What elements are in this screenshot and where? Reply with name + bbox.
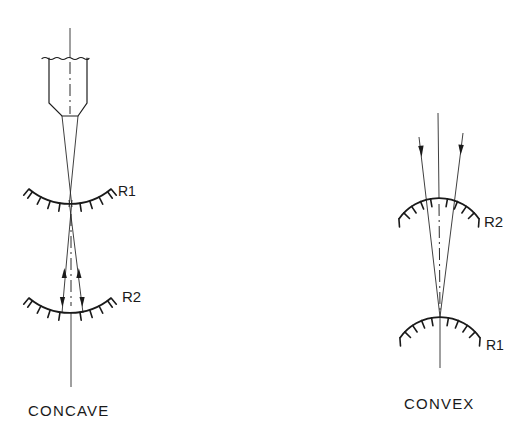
convex-caption: CONVEX [404,395,475,412]
convex-axis-centerline [439,204,440,312]
arrow-down-icon [458,145,463,156]
concave-surface-r2 [24,298,117,320]
concave-caption: CONCAVE [28,402,109,419]
concave-label-r2: R2 [122,288,141,305]
arrow-down-icon [60,297,65,307]
arrow-down-icon [80,297,85,307]
arrow-up-icon [76,268,81,278]
converging-beam [62,116,78,207]
concave-setup: R1 R2 CONCAVE [24,28,141,419]
probe-housing [42,58,89,117]
convex-incident-rays [418,133,464,317]
concave-label-r1: R1 [118,183,136,199]
reflected-beam [60,200,85,313]
convex-setup: R2 R1 CONVEX [399,113,504,412]
convex-axis-top [438,113,439,198]
mirror-diagram: R1 R2 CONCAVE R2 R1 CONVEX [0,0,525,432]
convex-label-r1: R1 [486,337,504,353]
convex-label-r2: R2 [484,213,503,230]
